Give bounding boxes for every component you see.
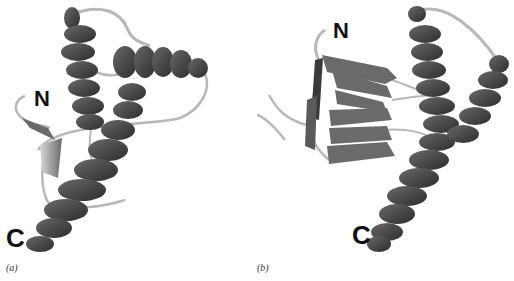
panel-caption-b: (b) bbox=[257, 262, 269, 273]
n-terminus-label-a: N bbox=[34, 88, 50, 110]
protein-ribbon-a bbox=[0, 0, 257, 281]
c-terminus-label-b: C bbox=[352, 222, 371, 248]
c-terminus-label-a: C bbox=[6, 225, 25, 251]
n-terminus-label-b: N bbox=[333, 20, 349, 42]
protein-ribbon-b bbox=[257, 0, 514, 281]
panel-b: N C (b) bbox=[257, 0, 514, 281]
panel-caption-a: (a) bbox=[6, 262, 18, 273]
panel-a: N C (a) bbox=[0, 0, 257, 281]
